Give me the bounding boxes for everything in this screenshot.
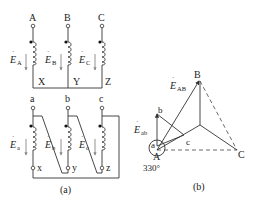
- label-C: C: [98, 12, 105, 23]
- svg-text:A: A: [17, 59, 22, 66]
- winding-A: [26, 24, 36, 88]
- vertex-A: A: [153, 151, 161, 162]
- vertex-C: C: [238, 149, 245, 160]
- terminal-a: [31, 106, 35, 110]
- svg-text:·: ·: [81, 133, 83, 141]
- svg-text:·: ·: [12, 48, 14, 56]
- phasor-diagram: B C A a b c E · AB E · ab 330°: [133, 69, 245, 173]
- emf-label-EAB: E · AB: [169, 74, 187, 92]
- triangle-ac: [157, 135, 184, 146]
- polarity-dot-icon: [29, 124, 32, 127]
- svg-text:a: a: [17, 144, 20, 151]
- caption-b: (b): [193, 181, 205, 193]
- svg-text:·: ·: [47, 133, 49, 141]
- polarity-dot-icon: [98, 40, 101, 43]
- winding-C: [95, 24, 105, 88]
- emf-label-Eb: E · b: [44, 133, 55, 151]
- svg-text:b: b: [52, 144, 55, 151]
- svg-text:·: ·: [47, 48, 49, 56]
- terminal-B: [66, 24, 70, 28]
- svg-text:·: ·: [12, 133, 14, 141]
- label-x: x: [37, 162, 42, 173]
- emf-label-EB: E · B: [44, 48, 57, 66]
- label-a: a: [30, 93, 35, 104]
- terminal-A: [31, 24, 35, 28]
- triangle-bc: [157, 114, 184, 135]
- svg-text:·: ·: [81, 48, 83, 56]
- label-Y: Y: [73, 76, 80, 87]
- terminal-c: [100, 106, 104, 110]
- emf-label-Eab: E · ab: [133, 118, 147, 136]
- vertex-b: b: [158, 105, 163, 115]
- svg-text:C: C: [86, 59, 90, 66]
- primary-windings: A B C X Y Z E · A E · B E · C: [9, 12, 111, 88]
- emf-label-EC: E · C: [78, 48, 90, 66]
- svg-text:·: ·: [172, 74, 174, 82]
- vertex-a: a: [151, 140, 155, 150]
- label-X: X: [38, 76, 46, 87]
- emf-label-EA: E · A: [9, 48, 22, 66]
- label-y: y: [72, 162, 77, 173]
- label-Z: Z: [105, 76, 111, 87]
- polarity-dot-icon: [29, 40, 32, 43]
- svg-text:c: c: [86, 144, 89, 151]
- svg-text:AB: AB: [177, 85, 187, 92]
- svg-text:ab: ab: [141, 129, 147, 136]
- polarity-dot-icon: [64, 124, 67, 127]
- secondary-windings: a b c x y z: [9, 93, 119, 178]
- polarity-dot-icon: [64, 40, 67, 43]
- label-b: b: [65, 93, 70, 104]
- polarity-dot-icon: [98, 124, 101, 127]
- terminal-y: [66, 166, 70, 170]
- label-c: c: [99, 93, 104, 104]
- terminal-x: [31, 166, 35, 170]
- emf-label-Ea: E · a: [9, 133, 20, 151]
- angle-label: 330°: [143, 163, 161, 173]
- svg-text:B: B: [52, 59, 57, 66]
- terminal-C: [100, 24, 104, 28]
- vertex-c: c: [186, 137, 190, 147]
- phasor-OC: [200, 125, 237, 150]
- label-z: z: [106, 162, 111, 173]
- svg-text:·: ·: [136, 118, 138, 126]
- triangle-BC: [200, 81, 237, 150]
- caption-a: (a): [60, 184, 71, 196]
- transformer-connection-diagram: A B C X Y Z E · A E · B E · C a b c: [0, 0, 253, 206]
- vertex-B: B: [194, 69, 201, 80]
- winding-B: [61, 24, 71, 88]
- label-B: B: [64, 12, 71, 23]
- terminal-z: [100, 166, 104, 170]
- terminal-b: [66, 106, 70, 110]
- label-A: A: [29, 12, 37, 23]
